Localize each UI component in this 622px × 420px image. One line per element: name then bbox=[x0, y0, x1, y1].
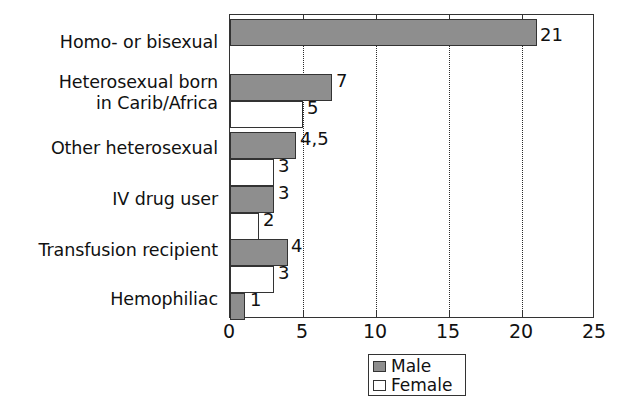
category-label-transfusion-recipient: Transfusion recipient bbox=[39, 240, 219, 261]
value-label-female-heterosexual-carib-africa: 5 bbox=[307, 99, 318, 117]
xtick-label-15: 15 bbox=[436, 322, 460, 341]
tick-bottom-10 bbox=[376, 311, 377, 318]
tick-bottom-15 bbox=[449, 311, 450, 318]
xtick-label-10: 10 bbox=[363, 322, 387, 341]
value-label-male-other-heterosexual: 4,5 bbox=[300, 130, 329, 148]
gridline-15 bbox=[449, 15, 450, 317]
bar-male-hemophiliac bbox=[230, 293, 245, 320]
legend: Male Female bbox=[368, 354, 466, 396]
xtick-label-5: 5 bbox=[296, 322, 308, 341]
legend-swatch-male-icon bbox=[373, 361, 386, 372]
category-label-heterosexual-born-carib-africa: Heterosexual born in Carib/Africa bbox=[59, 72, 218, 113]
value-label-female-iv-drug-user: 2 bbox=[263, 211, 274, 229]
value-label-male-hemophiliac: 1 bbox=[250, 291, 261, 309]
value-label-male-homo-or-bisexual: 21 bbox=[540, 26, 563, 44]
category-label-homo-or-bisexual: Homo- or bisexual bbox=[60, 32, 218, 53]
xtick-label-25: 25 bbox=[582, 322, 606, 341]
value-label-male-iv-drug-user: 3 bbox=[278, 184, 289, 202]
gridline-20 bbox=[522, 15, 523, 317]
category-label-other-heterosexual: Other heterosexual bbox=[51, 138, 218, 159]
value-label-female-other-heterosexual: 3 bbox=[278, 157, 289, 175]
xtick-label-0: 0 bbox=[223, 322, 235, 341]
value-label-female-transfusion-recipient: 3 bbox=[278, 264, 289, 282]
category-label-iv-drug-user: IV drug user bbox=[112, 189, 218, 210]
tick-bottom-5 bbox=[303, 311, 304, 318]
bar-female-iv-drug-user bbox=[230, 213, 259, 240]
gridline-5 bbox=[303, 15, 304, 317]
bar-female-other-heterosexual bbox=[230, 159, 274, 186]
category-label-hemophiliac: Hemophiliac bbox=[110, 289, 218, 310]
bar-female-heterosexual-carib-africa bbox=[230, 101, 303, 128]
tick-bottom-20 bbox=[522, 311, 523, 318]
legend-item-male: Male bbox=[373, 357, 465, 376]
xtick-label-20: 20 bbox=[509, 322, 533, 341]
bar-male-homo-or-bisexual bbox=[230, 19, 537, 46]
legend-label-female: Female bbox=[391, 377, 452, 394]
gridline-10 bbox=[376, 15, 377, 317]
legend-item-female: Female bbox=[373, 376, 465, 395]
legend-label-male: Male bbox=[391, 358, 431, 375]
value-label-male-transfusion-recipient: 4 bbox=[291, 237, 302, 255]
value-label-male-heterosexual-carib-africa: 7 bbox=[336, 72, 347, 90]
bar-chart: Homo- or bisexual Heterosexual born in C… bbox=[0, 0, 622, 420]
legend-swatch-female-icon bbox=[373, 380, 386, 391]
